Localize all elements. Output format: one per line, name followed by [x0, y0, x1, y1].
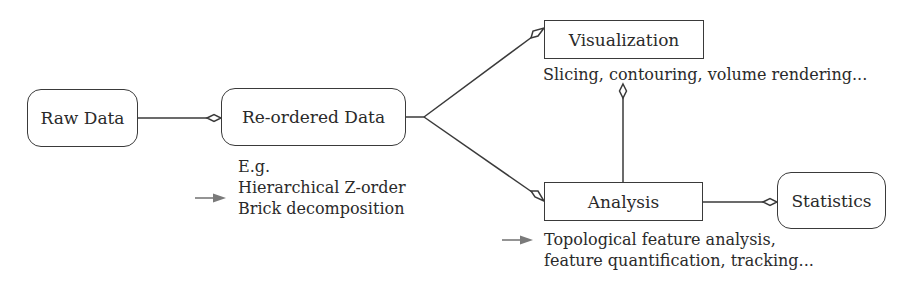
open-diamond-icon [531, 191, 544, 201]
open-diamond-icon [620, 84, 627, 98]
annotation-line: Brick decomposition [238, 198, 406, 219]
annotation-line: Topological feature analysis, [544, 229, 814, 250]
open-diamond-icon [763, 199, 777, 206]
node-raw-data: Raw Data [27, 89, 138, 147]
annotation-line: E.g. [238, 156, 406, 177]
annotation-line: feature quantification, tracking... [544, 250, 814, 271]
node-label: Analysis [588, 192, 659, 212]
node-label: Re-ordered Data [242, 107, 385, 127]
node-label: Visualization [569, 30, 680, 50]
analysis-description: Topological feature analysis, feature qu… [544, 229, 814, 271]
node-label: Raw Data [40, 108, 124, 128]
open-diamond-icon [531, 28, 544, 38]
open-diamond-icon [207, 115, 221, 122]
pointer-arrow-icon [195, 194, 226, 203]
node-reordered-data: Re-ordered Data [221, 88, 406, 146]
node-statistics: Statistics [777, 172, 886, 229]
reordered-examples-annotation: E.g. Hierarchical Z-order Brick decompos… [238, 156, 406, 219]
node-analysis: Analysis [544, 182, 703, 221]
annotation-line: Hierarchical Z-order [238, 177, 406, 198]
node-label: Statistics [791, 191, 871, 211]
edge-reordered-to-visualization [424, 37, 532, 117]
visualization-description: Slicing, contouring, volume rendering... [543, 64, 867, 85]
pointer-arrow-icon [502, 236, 533, 245]
node-visualization: Visualization [544, 20, 704, 59]
edge-reordered-to-analysis [424, 117, 532, 192]
